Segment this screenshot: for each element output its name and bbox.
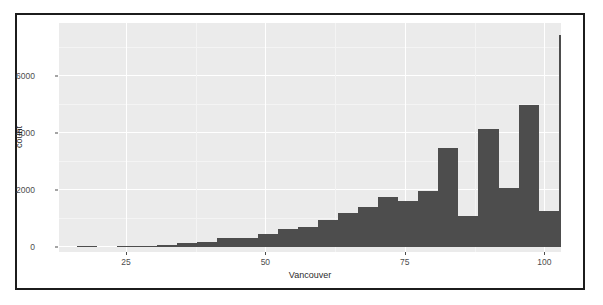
gridline-vertical-minor [335,23,336,252]
histogram-bar [278,229,298,247]
histogram-bar [237,238,257,247]
gridline-horizontal-major [59,75,561,76]
histogram-bar [137,246,157,247]
histogram-bar [358,207,378,247]
histogram-bar [499,188,519,247]
histogram-bar [418,191,438,247]
histogram-bar [338,213,358,247]
histogram-bar [318,220,338,247]
histogram-bar [398,201,418,247]
histogram-bar [197,242,217,247]
x-axis-tick-mark [544,252,545,255]
x-axis-tick-label: 25 [121,257,130,267]
x-axis-label: Vancouver [289,270,331,280]
histogram-bar [559,35,561,247]
gridline-horizontal-minor [59,104,561,105]
y-axis-tick-mark [55,76,58,77]
gridline-vertical-minor [196,23,197,252]
y-axis-tick-mark [55,190,58,191]
histogram-bar [117,246,137,247]
plot-area: 0200040006000 255075100 count Vancouver [17,15,583,288]
gridline-horizontal-minor [59,47,561,48]
histogram-bar [458,216,478,247]
y-axis-label: count [14,126,24,148]
histogram-bar [77,246,97,247]
gridline-vertical-major [265,23,266,252]
y-axis-tick-label: 0 [0,242,35,252]
y-axis-tick-mark [55,133,58,134]
histogram-bar [478,129,498,247]
histogram-bar [177,243,197,247]
x-axis-tick-label: 50 [261,257,270,267]
x-axis-tick-mark [126,252,127,255]
figure-frame: 0200040006000 255075100 count Vancouver [15,13,585,290]
x-axis-tick-mark [405,252,406,255]
histogram-bar [539,211,559,247]
x-axis-tick-label: 100 [537,257,551,267]
histogram-bar [157,245,177,247]
gridline-vertical-major [126,23,127,252]
y-axis-tick-mark [55,247,58,248]
x-axis-tick-mark [265,252,266,255]
histogram-bar [217,238,237,247]
plot-panel [59,23,561,252]
histogram-bar [258,234,278,247]
x-axis-tick-label: 75 [400,257,409,267]
histogram-bar [438,148,458,247]
histogram-bar [519,105,539,247]
y-axis-tick-label: 6000 [0,71,35,81]
histogram-bar [298,227,318,247]
y-axis-tick-label: 2000 [0,185,35,195]
histogram-bar [378,197,398,247]
